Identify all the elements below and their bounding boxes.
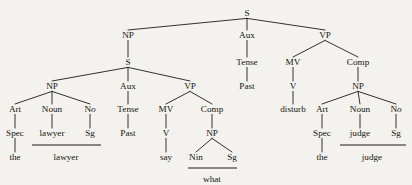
parse-tree-figure: SNPAuxVPSTenseMVCompNPAuxVPPastVNPArtNou… [0, 0, 412, 185]
tree-edge [15, 91, 52, 104]
tree-edge [52, 67, 128, 81]
tree-edge [325, 40, 358, 57]
tree-node-sg-wh: Sg [227, 152, 237, 162]
tree-node-mv-embed: MV [159, 104, 174, 114]
tree-edge [247, 18, 325, 30]
tree-node-past-main: Past [239, 81, 255, 91]
tree-node-what: what [203, 174, 221, 184]
tree-node-noun-l: Noun [42, 104, 63, 114]
tree-node-np-subj: NP [122, 30, 134, 40]
tree-rule-line-layer [32, 145, 406, 168]
tree-node-s-embed: S [125, 57, 130, 67]
tree-node-tense-main: Tense [236, 57, 257, 67]
tree-edge [293, 40, 325, 57]
parse-tree-canvas: SNPAuxVPSTenseMVCompNPAuxVPPastVNPArtNou… [0, 0, 412, 185]
tree-node-vp-main: VP [319, 30, 331, 40]
tree-edge [128, 18, 247, 30]
tree-node-v-main: V [290, 81, 297, 91]
tree-edge [196, 138, 212, 152]
tree-node-np-obj: NP [352, 81, 364, 91]
tree-node-no-r: No [390, 104, 402, 114]
tree-node-art-l: Art [9, 104, 22, 114]
tree-node-s-root: S [244, 8, 249, 18]
tree-node-np-embed: NP [46, 81, 58, 91]
tree-node-judge-2: judge [361, 152, 382, 162]
tree-node-nin: Nin [189, 152, 203, 162]
tree-node-aux-embed: Aux [120, 81, 136, 91]
tree-node-tense-embed: Tense [117, 104, 138, 114]
tree-node-spec-r: Spec [313, 128, 331, 138]
tree-edge [166, 91, 190, 104]
tree-edge [322, 91, 358, 104]
tree-edge [128, 67, 190, 81]
tree-node-art-r: Art [316, 104, 329, 114]
tree-node-lawyer-2: lawyer [54, 152, 79, 162]
tree-node-no-l: No [84, 104, 96, 114]
tree-edge [212, 138, 232, 152]
tree-node-sg-l: Sg [85, 128, 95, 138]
tree-node-sg-r: Sg [391, 128, 401, 138]
tree-node-spec-l: Spec [6, 128, 24, 138]
tree-node-the-l: the [9, 152, 20, 162]
tree-node-noun-r: Noun [350, 104, 371, 114]
tree-edge [358, 91, 396, 104]
tree-node-v-embed: V [163, 128, 170, 138]
tree-edge [52, 91, 90, 104]
tree-node-judge-1: judge [349, 128, 370, 138]
tree-node-comp-embed: Comp [201, 104, 224, 114]
tree-node-mv-main: MV [286, 57, 301, 67]
tree-edge [190, 91, 212, 104]
tree-node-disturb: disturb [280, 104, 306, 114]
tree-node-aux-main: Aux [239, 30, 255, 40]
tree-node-comp-main: Comp [347, 57, 370, 67]
tree-node-the-r: the [316, 152, 327, 162]
tree-node-lawyer-1: lawyer [40, 128, 65, 138]
tree-node-past-embed: Past [120, 128, 136, 138]
tree-node-say: say [160, 152, 173, 162]
tree-node-np-wh: NP [206, 128, 218, 138]
tree-node-vp-embed: VP [184, 81, 196, 91]
tree-edge [358, 91, 360, 104]
